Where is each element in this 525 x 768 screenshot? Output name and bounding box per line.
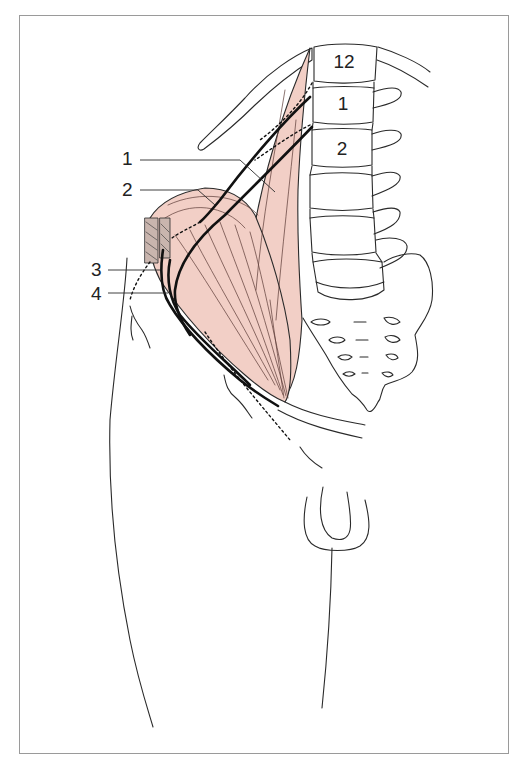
vertebra-label-l2: 2 — [322, 139, 362, 158]
callout-label-3: 3 — [91, 260, 102, 279]
vertebra-label-t12: 12 — [324, 52, 364, 71]
leader-2 — [140, 190, 215, 205]
callout-leaders — [0, 0, 525, 768]
callout-label-2: 2 — [122, 180, 133, 199]
leader-1 — [140, 160, 275, 192]
vertebra-label-l1: 1 — [323, 94, 363, 113]
callout-label-4: 4 — [91, 284, 102, 303]
callout-label-1: 1 — [122, 149, 133, 168]
